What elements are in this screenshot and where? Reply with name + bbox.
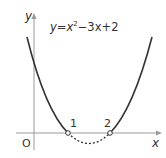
eq-y: y: [50, 20, 57, 34]
x-axis: [16, 131, 162, 136]
parabola-below-axis: [68, 133, 110, 144]
parabola-left: [27, 37, 68, 133]
root-label-1: 1: [70, 118, 77, 129]
eq-rest: −3x+2: [78, 20, 119, 34]
root-point-1: [66, 131, 71, 136]
root-label-2: 2: [104, 118, 111, 129]
y-axis-label: y: [25, 10, 32, 22]
y-axis: [32, 13, 37, 150]
x-axis-label: x: [152, 137, 159, 149]
root-point-2: [108, 131, 113, 136]
parabola-right: [110, 37, 152, 133]
equation-label: y=x2−3x+2: [50, 21, 118, 33]
eq-equals: =: [57, 20, 67, 34]
origin-label: O: [22, 138, 31, 149]
